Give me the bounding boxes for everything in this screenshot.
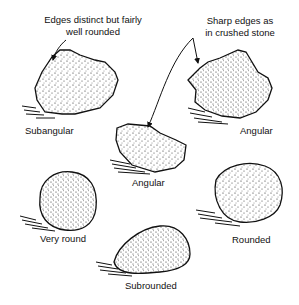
- subangular-stone-icon: [22, 50, 118, 118]
- angular-annotation: Sharp edges as in crushed stone: [195, 15, 285, 39]
- angular-center-stone-icon: [110, 124, 186, 174]
- subangular-annotation-line2: well rounded: [38, 26, 148, 38]
- angular-center-pointer-arrow-icon: [148, 38, 193, 127]
- angular-pointer-arrow-icon: [193, 38, 198, 63]
- very-round-stone-icon: [20, 172, 96, 231]
- subangular-annotation-line1: Edges distinct but fairly: [38, 14, 148, 26]
- subangular-annotation: Edges distinct but fairly well rounded: [38, 14, 148, 38]
- rounded-stone-icon: [196, 164, 282, 226]
- label-very-round: Very round: [40, 233, 86, 244]
- angular-annotation-line1: Sharp edges as: [195, 15, 285, 27]
- label-subrounded: Subrounded: [125, 280, 177, 291]
- stone-shapes-diagram: [0, 0, 299, 305]
- angular-top-stone-icon: [188, 50, 272, 124]
- label-angular-center: Angular: [132, 177, 165, 188]
- subrounded-stone-icon: [96, 226, 190, 276]
- label-angular-top: Angular: [240, 125, 273, 136]
- angular-annotation-line2: in crushed stone: [195, 27, 285, 39]
- label-rounded: Rounded: [232, 234, 271, 245]
- label-subangular: Subangular: [25, 125, 74, 136]
